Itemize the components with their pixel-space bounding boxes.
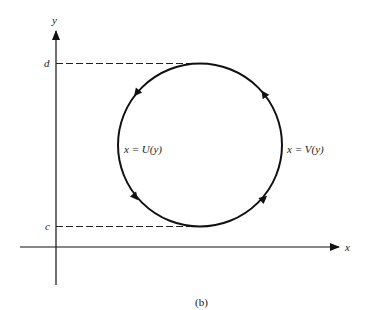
left-curve-label: x = U(y) <box>123 143 162 156</box>
region-diagram: y x d c x = U(y) x = V(y) (b) <box>0 0 369 310</box>
y-axis-label: y <box>51 14 57 26</box>
level-c-label: c <box>45 220 50 232</box>
right-curve-label: x = V(y) <box>286 143 324 156</box>
x-axis-label: x <box>344 241 350 253</box>
figure-caption: (b) <box>195 296 208 309</box>
level-d-label: d <box>44 57 50 69</box>
